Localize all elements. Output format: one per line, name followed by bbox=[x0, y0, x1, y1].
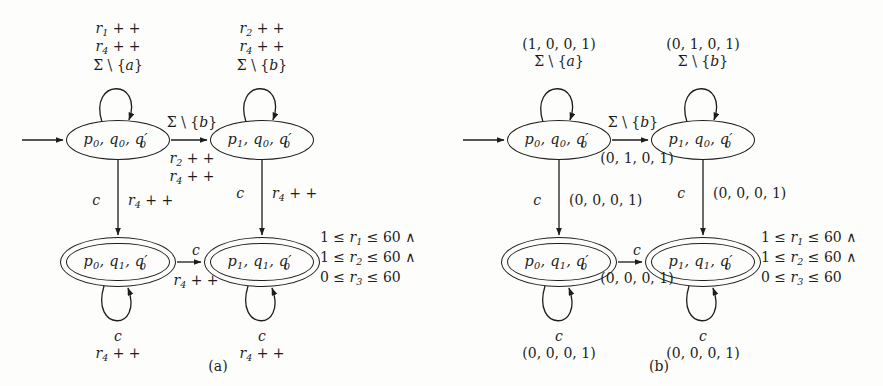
state-label: p0, q0, q′0 bbox=[525, 131, 594, 149]
label-loop-top-right: r2 + +r4 + +Σ \ {b} bbox=[237, 20, 287, 74]
edge-layer bbox=[0, 0, 442, 386]
panel-caption: (b) bbox=[649, 358, 669, 374]
state-p0q0[interactable]: p0, q0, q′0 bbox=[507, 120, 611, 160]
label-loop-bottom-right: c(0, 0, 0, 1) bbox=[666, 328, 739, 362]
panel-caption: (a) bbox=[208, 358, 227, 374]
constraint-block: 1 ≤ r1 ≤ 60 ∧1 ≤ r2 ≤ 60 ∧0 ≤ r3 ≤ 60 bbox=[761, 228, 856, 289]
self-loop-top-left bbox=[100, 89, 132, 122]
label-edge-left-act: (0, 0, 0, 1) bbox=[569, 192, 642, 209]
state-label: p0, q0, q′0 bbox=[84, 131, 153, 149]
label-edge-bottom-below: (0, 0, 0, 1) bbox=[600, 270, 673, 287]
state-label: p1, q0, q′0 bbox=[669, 131, 738, 149]
label-edge-bottom-above: c bbox=[633, 242, 641, 259]
constraint-line: 0 ≤ r3 ≤ 60 bbox=[761, 268, 856, 288]
figure-canvas: p0, q0, q′0p1, q0, q′0p0, q1, q′0p1, q1,… bbox=[0, 0, 883, 386]
self-loop-bottom-left bbox=[543, 286, 572, 321]
label-loop-bottom-right: cr4 + + bbox=[239, 328, 284, 363]
label-edge-bottom-below: r4 + + bbox=[173, 272, 218, 290]
label-edge-right-guard: c bbox=[236, 185, 244, 202]
label-edge-right-act: r4 + + bbox=[272, 185, 317, 203]
state-label: p0, q1, q′0 bbox=[84, 253, 153, 271]
constraint-line: 1 ≤ r2 ≤ 60 ∧ bbox=[761, 248, 856, 268]
constraint-block: 1 ≤ r1 ≤ 60 ∧1 ≤ r2 ≤ 60 ∧0 ≤ r3 ≤ 60 bbox=[320, 228, 415, 289]
label-loop-bottom-left: c(0, 0, 0, 1) bbox=[522, 328, 595, 362]
label-loop-top-left: r1 + +r4 + +Σ \ {a} bbox=[93, 20, 143, 74]
state-label: p0, q1, q′0 bbox=[525, 253, 594, 271]
state-p0q1-accepting[interactable]: p0, q1, q′0 bbox=[60, 237, 176, 287]
state-p1q0[interactable]: p1, q0, q′0 bbox=[210, 120, 314, 160]
state-p0q0[interactable]: p0, q0, q′0 bbox=[66, 120, 170, 160]
label-loop-top-left: (1, 0, 0, 1)Σ \ {a} bbox=[522, 36, 595, 70]
label-edge-right-guard: c bbox=[677, 185, 685, 202]
automaton-panel-b: p0, q0, q′0p1, q0, q′0p0, q1, q′0p1, q1,… bbox=[441, 0, 883, 386]
label-loop-bottom-left: cr4 + + bbox=[95, 328, 140, 363]
constraint-line: 1 ≤ r2 ≤ 60 ∧ bbox=[320, 248, 415, 268]
state-label: p1, q0, q′0 bbox=[228, 131, 297, 149]
label-edge-top-above: Σ \ {b} bbox=[167, 114, 217, 131]
self-loop-bottom-left bbox=[102, 286, 131, 321]
label-loop-top-right: (0, 1, 0, 1)Σ \ {b} bbox=[666, 36, 739, 70]
edge-layer bbox=[441, 0, 883, 386]
constraint-line: 1 ≤ r1 ≤ 60 ∧ bbox=[320, 228, 415, 248]
self-loop-top-right bbox=[244, 89, 276, 122]
label-edge-top-below: r2 + +r4 + + bbox=[169, 150, 214, 187]
label-edge-left-act: r4 + + bbox=[128, 192, 173, 210]
automaton-panel-a: p0, q0, q′0p1, q0, q′0p0, q1, q′0p1, q1,… bbox=[0, 0, 442, 386]
label-edge-bottom-above: c bbox=[192, 242, 200, 259]
constraint-line: 1 ≤ r1 ≤ 60 ∧ bbox=[761, 228, 856, 248]
label-edge-right-act: (0, 0, 0, 1) bbox=[713, 185, 786, 202]
state-label: p1, q1, q′0 bbox=[228, 253, 297, 271]
state-p1q1-accepting[interactable]: p1, q1, q′0 bbox=[204, 237, 320, 287]
label-edge-top-below: (0, 1, 0, 1) bbox=[600, 150, 673, 167]
self-loop-top-right bbox=[685, 89, 717, 122]
state-label: p1, q1, q′0 bbox=[669, 253, 738, 271]
label-edge-top-above: Σ \ {b} bbox=[608, 114, 658, 131]
constraint-line: 0 ≤ r3 ≤ 60 bbox=[320, 268, 415, 288]
label-edge-left-guard: c bbox=[92, 192, 100, 209]
label-edge-left-guard: c bbox=[533, 192, 541, 209]
self-loop-bottom-right bbox=[246, 286, 275, 321]
self-loop-top-left bbox=[541, 89, 573, 122]
self-loop-bottom-right bbox=[687, 286, 716, 321]
